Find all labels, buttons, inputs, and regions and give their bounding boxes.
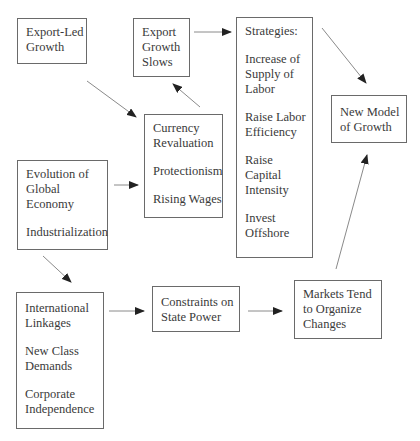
linkage-item: Linkages [25,316,95,331]
evolution-item: Industrialization [26,225,99,240]
strategy-item: Labor [245,82,304,97]
arrow-markets-to-newmodel [336,155,367,269]
node-text: Export [142,25,181,40]
node-responses: Currency Revaluation Protectionism Risin… [144,114,223,218]
linkage-item: Corporate [25,387,95,402]
strategy-item: Supply of [245,67,304,82]
evolution-item: Economy [26,197,99,212]
evolution-item: Global [26,182,99,197]
arrow-responses-to-slows [173,84,200,107]
node-text: Export-Led [26,25,78,40]
response-item: Revaluation [153,136,214,151]
node-evolution-of-global-economy: Evolution of Global Economy Industrializ… [17,160,108,250]
node-text: State Power [161,310,231,325]
linkage-item: Independence [25,402,95,417]
strategy-item: Efficiency [245,125,304,140]
strategy-item: Raise Labor [245,110,304,125]
node-markets-tend-to-organize-changes: Markets Tend to Organize Changes [294,280,382,339]
node-text: Growth [142,40,181,55]
strategy-item: Intensity [245,183,304,198]
response-item: Currency [153,121,214,136]
node-text: New Model [340,105,398,120]
response-item: Rising Wages [153,192,214,207]
flow-diagram: Export-Led Growth Export Growth Slows St… [0,0,420,441]
strategy-item: Offshore [245,226,304,241]
linkage-item: Demands [25,359,95,374]
node-export-growth-slows: Export Growth Slows [133,18,190,77]
node-international-linkages: International Linkages New Class Demands… [16,292,104,429]
evolution-item: Evolution of [26,167,99,182]
node-text: to Organize [303,302,373,317]
linkage-item: New Class [25,344,95,359]
arrow-exportled-to-responses [87,81,136,117]
node-text: Constraints on [161,295,231,310]
response-item: Protectionism [153,164,214,179]
node-export-led-growth: Export-Led Growth [17,18,87,64]
node-text: Growth [26,40,78,55]
strategy-item: Raise [245,153,304,168]
arrow-evolution-to-linkages [43,256,71,282]
node-strategies: Strategies: Increase of Supply of Labor … [236,17,313,258]
node-new-model-of-growth: New Model of Growth [331,95,407,143]
strategy-item: Capital [245,168,304,183]
strategies-title: Strategies: [245,24,304,39]
node-text: Markets Tend [303,287,373,302]
linkage-item: International [25,301,95,316]
node-text: of Growth [340,120,398,135]
strategy-item: Invest [245,211,304,226]
node-text: Changes [303,317,373,332]
arrow-strategies-to-newmodel [322,28,366,83]
node-constraints-on-state-power: Constraints on State Power [152,286,240,332]
strategy-item: Increase of [245,52,304,67]
node-text: Slows [142,55,181,70]
